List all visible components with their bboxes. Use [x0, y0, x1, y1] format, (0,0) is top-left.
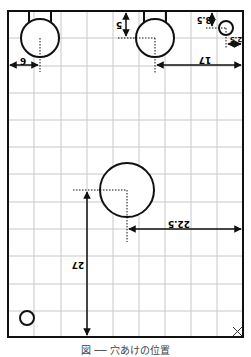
dim-3-5-label: 3.5: [196, 15, 211, 24]
dim-17-label: 17: [199, 55, 212, 65]
hole-bottom-left: [20, 311, 34, 325]
figure-caption: 図 ── 穴あけの位置: [0, 342, 251, 357]
dim-22-5-label: 22.5: [168, 219, 190, 229]
dim-5-label: 5: [116, 20, 122, 30]
corner-mark-icon: [233, 327, 242, 336]
dim-6-label: 6: [20, 56, 26, 66]
dim-2-5-label: 2.5: [230, 35, 243, 43]
dim-27-label: 27: [72, 260, 85, 270]
